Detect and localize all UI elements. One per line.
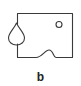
teardrop-shape (9, 23, 25, 45)
figure-label: b (0, 70, 81, 84)
small-circle-shape (56, 22, 62, 28)
outline-shape (18, 14, 73, 58)
